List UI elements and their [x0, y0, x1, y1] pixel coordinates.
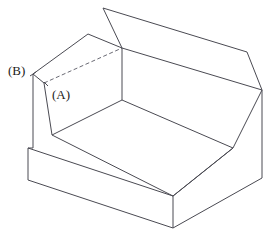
- callout-label-a: (A): [52, 88, 70, 101]
- face-fills: [28, 8, 262, 228]
- isometric-solid-svg: [0, 0, 278, 241]
- isometric-drawing-figure: (B) (A): [0, 0, 278, 241]
- callout-label-b: (B): [8, 64, 25, 77]
